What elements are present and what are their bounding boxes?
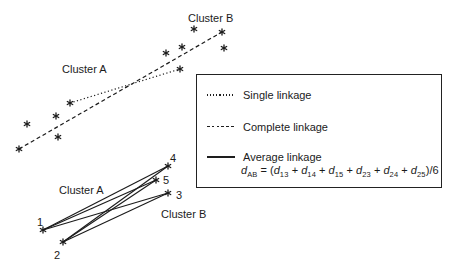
legend-label-average-linkage: Average linkage xyxy=(243,151,322,163)
linkage-figure: Cluster ACluster BCluster ACluster B1234… xyxy=(0,0,457,273)
upper-cluster-a-label: Cluster A xyxy=(62,63,107,75)
formula-text: + xyxy=(316,164,329,176)
legend-item-average-linkage: Average linkage xyxy=(207,149,322,165)
formula-subscript: 23 xyxy=(362,170,371,179)
formula-text: + xyxy=(289,164,302,176)
formula-text: + xyxy=(398,164,411,176)
point-number-label-2: 2 xyxy=(54,249,60,261)
upper-cluster-b-label: Cluster B xyxy=(188,12,233,24)
cluster-b-point xyxy=(177,66,182,72)
cluster-b-point xyxy=(163,50,168,56)
lower-cluster-a-label: Cluster A xyxy=(59,184,104,196)
cluster-a-point xyxy=(55,134,60,140)
cluster-b-point xyxy=(191,26,196,32)
average-linkage-line-2-4 xyxy=(63,166,168,242)
legend-item-single-linkage: Single linkage xyxy=(207,87,312,103)
cluster-b-point xyxy=(179,44,184,50)
point-number-label-1: 1 xyxy=(37,216,43,228)
average-linkage-line-2-3 xyxy=(63,193,168,242)
point-number-label-3: 3 xyxy=(176,189,182,201)
average-linkage-sample-line xyxy=(207,156,235,158)
lower-cluster-b-label: Cluster B xyxy=(161,208,206,220)
legend-item-complete-linkage: Complete linkage xyxy=(207,119,328,135)
formula-subscript: 13 xyxy=(280,170,289,179)
numbered-point-2 xyxy=(60,239,65,245)
average-linkage-formula: dAB = (d13 + d14 + d15 + d23 + d24 + d25… xyxy=(241,164,439,179)
point-number-label-4: 4 xyxy=(170,152,176,164)
cluster-a-point xyxy=(24,121,29,127)
legend-box: Single linkage Complete linkage Average … xyxy=(196,74,442,188)
formula-text: + xyxy=(343,164,356,176)
cluster-a-point xyxy=(67,100,72,106)
cluster-b-point xyxy=(221,45,226,51)
formula-subscript: 24 xyxy=(390,170,399,179)
formula-subscript: 14 xyxy=(307,170,316,179)
cluster-a-point xyxy=(16,146,21,152)
point-number-label-5: 5 xyxy=(163,174,169,186)
complete-linkage-sample-line xyxy=(207,126,235,128)
formula-text: = ( xyxy=(258,164,274,176)
formula-subscript: AB xyxy=(247,170,257,179)
formula-text: + xyxy=(371,164,384,176)
cluster-b-point xyxy=(219,29,224,35)
single-linkage-sample-line xyxy=(207,94,235,96)
legend-label-complete-linkage: Complete linkage xyxy=(243,121,328,133)
legend-label-single-linkage: Single linkage xyxy=(243,89,312,101)
complete-linkage-line xyxy=(19,32,222,149)
formula-subscript: 25 xyxy=(417,170,426,179)
cluster-a-point xyxy=(53,113,58,119)
formula-text: )/6 xyxy=(426,164,439,176)
numbered-point-5 xyxy=(153,177,158,183)
